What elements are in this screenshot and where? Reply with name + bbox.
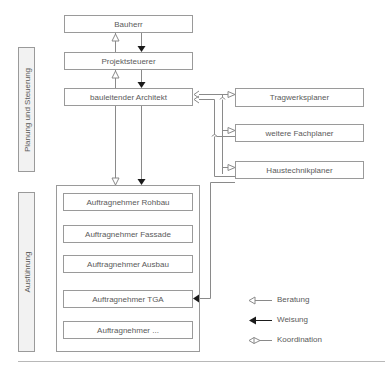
- coordination-arrow-icon: [228, 165, 235, 171]
- box-contractor: Auftragnehmer ...: [63, 321, 193, 339]
- box-site-architect: bauleitender Architekt: [64, 88, 193, 106]
- box-project-controller: Projektsteuerer: [64, 52, 193, 70]
- box-planner: Haustechnikplaner: [235, 161, 364, 179]
- side-label-execution-text: Ausführung: [22, 252, 31, 293]
- legend-open-arrow-icon: [249, 297, 255, 304]
- box-client-label: Bauherr: [114, 20, 142, 29]
- side-label-planning-text: Planung und Steuerung: [22, 67, 31, 151]
- box-planner-label: weitere Fachplaner: [265, 129, 333, 138]
- box-contractor: Auftragnehmer TGA: [63, 290, 193, 308]
- box-client: Bauherr: [64, 15, 193, 33]
- box-planner: Tragwerksplaner: [235, 88, 364, 107]
- open-arrow-icon: [112, 34, 119, 41]
- box-contractor: Auftragnehmer Rohbau: [63, 193, 193, 211]
- bottom-divider: [18, 361, 385, 362]
- side-label-planning: Planung und Steuerung: [18, 47, 35, 172]
- legend-coordination-arrow-icon: [254, 338, 260, 344]
- legend-label-advice: Beratung: [277, 295, 309, 304]
- coordination-arrow-icon: [194, 96, 199, 103]
- box-contractor-label: Auftragnehmer Rohbau: [86, 198, 169, 207]
- side-label-execution: Ausführung: [18, 192, 35, 352]
- box-contractor-label: Auftragnehmer TGA: [92, 295, 163, 304]
- box-contractor-label: Auftragnehmer ...: [97, 326, 159, 335]
- box-planner-label: Tragwerksplaner: [270, 93, 329, 102]
- box-contractor-label: Auftragnehmer Fassade: [85, 230, 171, 239]
- legend-label-coordination: Koordination: [277, 335, 322, 344]
- open-arrow-icon: [112, 71, 119, 78]
- box-planner-label: Haustechnikplaner: [266, 166, 332, 175]
- legend-solid-arrow-icon: [249, 317, 256, 325]
- box-site-architect-label: bauleitender Architekt: [90, 93, 167, 102]
- box-contractor: Auftragnehmer Ausbau: [63, 255, 193, 273]
- legend-label-instruction: Weisung: [277, 315, 308, 324]
- coordination-arrow-icon: [228, 92, 235, 98]
- open-arrow-icon: [112, 178, 119, 185]
- coordination-arrow-icon: [228, 128, 235, 134]
- box-planner: weitere Fachplaner: [235, 124, 364, 142]
- box-contractor-label: Auftragnehmer Ausbau: [87, 260, 169, 269]
- box-project-controller-label: Projektsteuerer: [101, 57, 155, 66]
- box-contractor: Auftragnehmer Fassade: [63, 225, 193, 243]
